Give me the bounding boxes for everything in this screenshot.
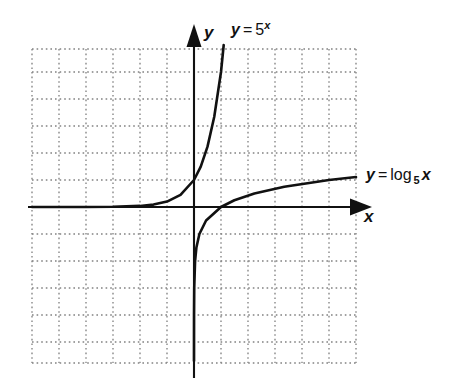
y-axis-label: y [204, 24, 213, 41]
graph-figure: y x y=5x y=log5x [0, 0, 457, 378]
exp-label-lhs: y [231, 21, 240, 38]
log-label-lhs: y [366, 166, 375, 183]
log-label-equals: = [378, 166, 387, 183]
logarithm-curve-label: y=log5x [366, 167, 431, 186]
log-label-base: 5 [414, 174, 420, 186]
log-label-argument: x [422, 166, 431, 183]
exp-label-exponent: x [264, 19, 270, 31]
x-axis-label: x [364, 208, 373, 225]
exponential-curve-label: y=5x [231, 20, 270, 38]
log-label-fn: log [390, 166, 411, 183]
logarithm-curve [194, 177, 356, 361]
coordinate-plane [0, 0, 457, 378]
exp-label-base: 5 [255, 21, 264, 38]
y-axis-arrowhead [187, 24, 202, 47]
exp-label-equals: = [243, 21, 252, 38]
